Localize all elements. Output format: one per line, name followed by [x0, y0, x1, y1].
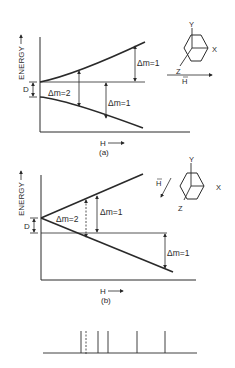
panel-a-dm1-lower-label: Δm=1 — [108, 98, 131, 108]
panel-b-dm1-lower-label: Δm=1 — [167, 248, 190, 258]
panel-b-energy-label: ENERGY — [17, 182, 26, 216]
axis-y-label: Y — [189, 20, 194, 29]
panel-a-molecule-orientation-icon: Y X Z H — [167, 20, 217, 86]
field-h-label: H — [182, 77, 187, 86]
axis-y-label: Y — [189, 155, 194, 164]
zero-field-splitting-diagram: ENERGY D Δm=2 Δm=1 Δm=1 H (a) Y X Z H — [0, 0, 235, 368]
spectrum — [43, 331, 197, 355]
axis-x-label: X — [216, 183, 221, 192]
panel-a-h-label: H — [100, 139, 106, 148]
field-h-label: H — [156, 179, 161, 188]
axis-z-label: Z — [178, 204, 183, 213]
panel-a-dm2-label: Δm=2 — [48, 88, 71, 98]
panel-a: ENERGY D Δm=2 Δm=1 Δm=1 H (a) Y X Z H — [17, 20, 217, 157]
panel-b-d-label: D — [24, 222, 30, 231]
panel-a-energy-label: ENERGY — [17, 46, 26, 80]
panel-a-upper-level — [40, 42, 145, 82]
panel-b-dm1-upper-label: Δm=1 — [100, 207, 123, 217]
panel-b-dm2-label: Δm=2 — [56, 214, 79, 224]
field-arrow-icon — [161, 178, 171, 197]
panel-b-molecule-orientation-icon: Y X Z H — [156, 155, 221, 213]
panel-b-caption: (b) — [101, 296, 111, 305]
panel-a-d-label: D — [23, 85, 29, 94]
panel-b-h-label: H — [100, 287, 106, 296]
panel-a-dm1-upper-label: Δm=1 — [137, 58, 160, 68]
panel-b-lower-level — [41, 218, 173, 272]
panel-a-caption: (a) — [99, 148, 109, 157]
axis-x-label: X — [212, 45, 217, 54]
panel-b-upper-level — [41, 174, 143, 218]
panel-b: ENERGY D Δm=2 Δm=1 Δm=1 H (b) Y X Z H — [17, 155, 221, 305]
